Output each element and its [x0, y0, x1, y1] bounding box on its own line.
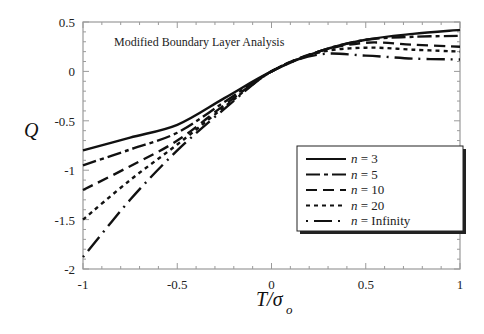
- y-tick-label: 0: [69, 64, 76, 79]
- x-tick-label: -1: [78, 277, 89, 292]
- legend-label: n = 10: [351, 182, 384, 197]
- x-axis-title-main: T/σ: [256, 288, 284, 310]
- x-tick-label: 1: [457, 277, 464, 292]
- y-tick-label: -1: [64, 163, 75, 178]
- legend: n = 3n = 5n = 10n = 20n = Infinity: [297, 146, 466, 234]
- x-tick-label: 0.5: [358, 277, 374, 292]
- legend-label: n = 3: [351, 151, 378, 166]
- x-axis-title-subscript: o: [286, 302, 293, 317]
- x-axis-title: T/σ o: [256, 288, 293, 317]
- legend-label: n = 20: [351, 198, 384, 213]
- chart: -1-0.500.51-2-1.5-1-0.500.5 Modified Bou…: [0, 0, 484, 334]
- chart-annotation: Modified Boundary Layer Analysis: [114, 35, 285, 49]
- y-tick-label: -1.5: [54, 213, 75, 228]
- legend-label: n = Infinity: [351, 213, 411, 228]
- y-tick-label: -0.5: [54, 114, 75, 129]
- legend-label: n = 5: [351, 167, 378, 182]
- x-tick-label: -0.5: [167, 277, 188, 292]
- y-axis-title: Q: [24, 119, 39, 141]
- y-tick-label: 0.5: [59, 15, 75, 30]
- y-tick-label: -2: [64, 262, 75, 277]
